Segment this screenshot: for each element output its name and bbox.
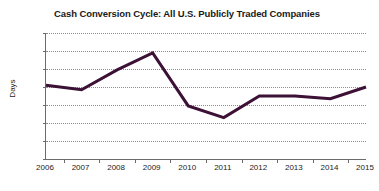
x-tick-mark xyxy=(277,159,278,163)
x-tick-mark xyxy=(135,159,136,163)
x-tick-mark xyxy=(348,159,349,163)
x-tick-label: 2006 xyxy=(29,164,61,172)
x-tick-label: 2009 xyxy=(136,164,168,172)
x-tick-mark xyxy=(206,159,207,163)
x-tick-label: 2008 xyxy=(100,164,132,172)
x-tick-mark xyxy=(313,159,314,163)
x-tick-label: 2012 xyxy=(242,164,274,172)
chart-title: Cash Conversion Cycle: All U.S. Publicly… xyxy=(0,8,374,19)
x-tick-mark xyxy=(64,159,65,163)
x-tick-label: 2010 xyxy=(171,164,203,172)
data-series-line xyxy=(46,53,366,118)
x-tick-label: 2007 xyxy=(65,164,97,172)
plot-area: 6866646260585654 xyxy=(45,33,366,160)
x-tick-label: 2015 xyxy=(349,164,379,172)
data-line-svg xyxy=(46,33,366,159)
x-tick-mark xyxy=(242,159,243,163)
x-tick-label: 2014 xyxy=(313,164,345,172)
x-tick-mark xyxy=(170,159,171,163)
y-axis-label: Days xyxy=(8,69,17,109)
x-tick-mark xyxy=(99,159,100,163)
y-tick-mark xyxy=(43,159,46,160)
x-tick-label: 2011 xyxy=(207,164,239,172)
x-tick-label: 2013 xyxy=(278,164,310,172)
